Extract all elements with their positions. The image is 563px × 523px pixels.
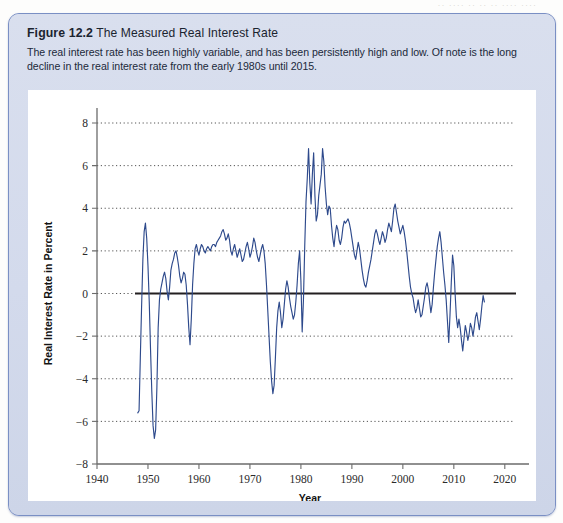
- y-tick-label-4: 4: [82, 202, 88, 214]
- y-tick-label-0: 0: [82, 288, 88, 300]
- x-tick-label-1980: 1980: [289, 473, 312, 485]
- figure-caption: The real interest rate has been highly v…: [27, 45, 539, 73]
- x-tick-label-2010: 2010: [442, 473, 465, 485]
- figure-title: The Measured Real Interest Rate: [96, 26, 278, 40]
- page-bleed-text: ·· ···· ·· ·· ·· ···· ····: [438, 0, 537, 10]
- x-tick-label-1970: 1970: [238, 473, 261, 485]
- y-tick-label--6: −6: [76, 416, 88, 428]
- x-axis-title: Year: [299, 492, 321, 501]
- figure-heading: Figure 12.2 The Measured Real Interest R…: [27, 27, 539, 40]
- figure-panel: Figure 12.2 The Measured Real Interest R…: [8, 13, 556, 516]
- plot-card: −8−6−4−202468194019501960197019801990200…: [28, 90, 536, 501]
- x-tick-label-2000: 2000: [391, 473, 414, 485]
- y-tick-label--8: −8: [76, 458, 88, 470]
- x-tick-label-2020: 2020: [493, 473, 516, 485]
- x-tick-label-1960: 1960: [187, 473, 210, 485]
- y-tick-label-6: 6: [82, 160, 88, 172]
- y-tick-label-8: 8: [82, 117, 88, 129]
- figure-number: Figure 12.2: [27, 26, 93, 40]
- y-axis-title: Real Interest Rate in Percent: [42, 221, 54, 365]
- line-chart: −8−6−4−202468194019501960197019801990200…: [28, 90, 536, 501]
- y-tick-label-2: 2: [82, 245, 88, 257]
- x-tick-label-1940: 1940: [86, 473, 109, 485]
- y-tick-label--2: −2: [76, 330, 88, 342]
- x-tick-label-1990: 1990: [340, 473, 363, 485]
- figure-page: ·· ···· ·· ·· ·· ···· ···· Figure 12.2 T…: [0, 0, 563, 523]
- y-tick-label--4: −4: [76, 373, 88, 385]
- x-tick-label-1950: 1950: [136, 473, 159, 485]
